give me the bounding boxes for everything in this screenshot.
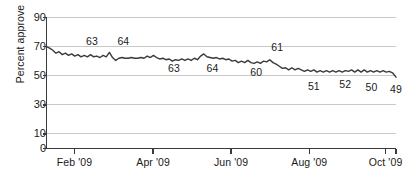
x-tick-label-1: Apr '09: [136, 156, 170, 168]
x-tick-label-4: Oct '09: [369, 156, 403, 168]
x-tick-label-2: Jun '09: [214, 156, 248, 168]
annotation-64-1: 64: [117, 35, 129, 47]
x-tick-label-0: Feb '09: [57, 156, 92, 168]
annotation-49-9: 49: [390, 83, 402, 95]
annotation-52-7: 52: [339, 78, 351, 90]
annotation-60-5: 60: [250, 66, 262, 78]
annotation-50-8: 50: [366, 81, 378, 93]
annotation-64-3: 64: [207, 62, 219, 74]
annotation-63-2: 63: [168, 62, 180, 74]
data-line-percent-approve: [47, 47, 397, 78]
annotation-61-4: 61: [271, 41, 283, 53]
annotation-51-6: 51: [308, 80, 320, 92]
x-tick-label-3: Aug '09: [291, 156, 327, 168]
annotation-63-0: 63: [86, 35, 98, 47]
approval-rating-chart: Percent approve 90 70 50 30 10 0 Feb '09…: [0, 0, 415, 190]
